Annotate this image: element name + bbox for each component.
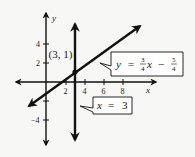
svg-text:y: y <box>115 58 121 70</box>
point-label: (3, 1) <box>49 48 73 61</box>
svg-text:x: x <box>146 58 152 70</box>
intersection-point <box>72 69 77 74</box>
svg-text:=: = <box>108 99 114 111</box>
coordinate-graph: 2 4 6 8 4 2 −4 y x (3, 1) y = 3 4 x − 5 … <box>0 0 195 157</box>
y-tick-label: 4 <box>36 40 40 49</box>
svg-text:4: 4 <box>141 65 145 73</box>
x-axis-label: x <box>145 85 150 95</box>
y-axis-label: y <box>51 13 56 23</box>
svg-text:3: 3 <box>122 99 128 111</box>
x-tick-label: 2 <box>64 87 68 96</box>
svg-text:x: x <box>96 99 102 111</box>
x-tick-label: 8 <box>121 87 125 96</box>
svg-text:3: 3 <box>141 56 145 64</box>
svg-text:5: 5 <box>172 56 176 64</box>
svg-text:=: = <box>128 58 134 70</box>
x-tick-label: 6 <box>102 87 106 96</box>
vertical-line-callout: x = 3 <box>80 97 132 114</box>
slanted-line-callout: y = 3 4 x − 5 4 <box>100 52 183 76</box>
y-tick-label: −4 <box>31 116 40 125</box>
svg-text:4: 4 <box>172 65 176 73</box>
y-tick-label: 2 <box>36 59 40 68</box>
x-tick-label: 4 <box>83 87 87 96</box>
svg-text:−: − <box>158 58 164 70</box>
